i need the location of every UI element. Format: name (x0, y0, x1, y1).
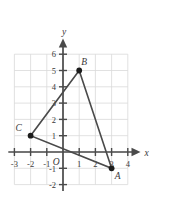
x-axis-arrow-icon (132, 148, 141, 156)
y-axis-arrow-icon (59, 39, 67, 48)
y-tick-label: 5 (52, 66, 56, 76)
vertex-point-c (28, 133, 34, 139)
y-axis-label: y (61, 27, 67, 37)
x-tick-label: -2 (27, 159, 34, 169)
x-tick-label: 1 (77, 159, 81, 169)
y-tick-label: 2 (52, 115, 56, 125)
x-axis-label: x (143, 148, 149, 158)
vertex-point-a (109, 165, 115, 171)
x-tick-label: 4 (126, 159, 131, 169)
coordinate-plot: -3-2-11234-2-1123456O ABC xy (0, 0, 179, 207)
y-tick-label: 1 (52, 131, 56, 141)
y-tick-label: 6 (52, 49, 56, 59)
point-label-c: C (15, 123, 22, 133)
y-tick-label: -2 (49, 180, 56, 190)
vertex-point-b (76, 68, 82, 74)
coordinate-plane-figure: -3-2-11234-2-1123456O ABC xy (0, 0, 179, 207)
origin-label: O (53, 157, 60, 167)
x-tick-label: -3 (11, 159, 18, 169)
point-label-a: A (114, 171, 121, 181)
x-tick-label: 2 (93, 159, 97, 169)
point-label-b: B (81, 57, 87, 67)
axis-names: xy (61, 27, 150, 158)
